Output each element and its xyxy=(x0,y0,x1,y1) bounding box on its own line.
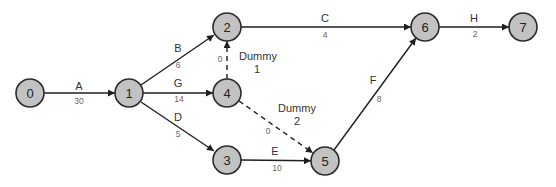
node-label-5: 5 xyxy=(321,154,328,169)
node-7: 7 xyxy=(509,13,537,41)
duration-label-dummy-1: 0 xyxy=(218,54,223,64)
duration-label-F: 8 xyxy=(377,94,382,104)
duration-label-G: 14 xyxy=(174,94,184,104)
node-label-1: 1 xyxy=(125,86,132,101)
activity-label-E: E xyxy=(271,145,278,157)
duration-label-D: 5 xyxy=(176,129,181,139)
edge-D xyxy=(141,102,214,151)
node-label-3: 3 xyxy=(223,153,230,168)
duration-label-C: 4 xyxy=(323,30,328,40)
node-label-7: 7 xyxy=(519,20,526,35)
edge-E xyxy=(241,160,311,161)
node-3: 3 xyxy=(213,146,241,174)
edge-F xyxy=(334,38,416,150)
node-1: 1 xyxy=(115,79,143,107)
activity-label-B: B xyxy=(174,42,181,54)
dummy-2-label-line1: Dummy xyxy=(278,102,316,114)
duration-label-A: 30 xyxy=(74,96,84,106)
activity-label-D: D xyxy=(174,111,182,123)
node-label-4: 4 xyxy=(223,86,230,101)
dummy-1-label-line2: 1 xyxy=(254,63,260,75)
node-6: 6 xyxy=(411,13,439,41)
duration-label-E: 10 xyxy=(272,163,282,173)
activity-label-F: F xyxy=(370,74,377,86)
activity-label-A: A xyxy=(75,80,83,92)
node-5: 5 xyxy=(311,147,339,175)
duration-label-dummy-2: 0 xyxy=(266,126,271,136)
activity-label-G: G xyxy=(174,77,183,89)
activity-label-H: H xyxy=(470,12,478,24)
node-label-0: 0 xyxy=(26,86,33,101)
activity-label-C: C xyxy=(321,12,329,24)
edges xyxy=(44,27,509,161)
duration-label-B: 6 xyxy=(176,60,181,70)
node-label-2: 2 xyxy=(223,20,230,35)
node-0: 0 xyxy=(16,79,44,107)
network-diagram: A 30 B 6 G 14 D 5 C 4 Dummy 1 0 Dummy 2 … xyxy=(0,0,556,187)
node-4: 4 xyxy=(213,79,241,107)
dummy-1-label-line1: Dummy xyxy=(239,50,277,62)
duration-label-H: 2 xyxy=(473,29,478,39)
node-2: 2 xyxy=(213,13,241,41)
dummy-2-label-line2: 2 xyxy=(294,115,300,127)
node-label-6: 6 xyxy=(421,20,428,35)
